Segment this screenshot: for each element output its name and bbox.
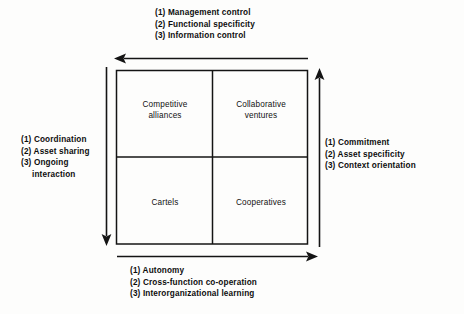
axis-label-top-line-1: (1) Management control bbox=[155, 7, 255, 19]
axis-label-right-line-1: (1) Commitment bbox=[325, 137, 416, 149]
bottom-axis-arrow bbox=[117, 252, 318, 262]
axis-label-left: (1) Coordination (2) Asset sharing (3) O… bbox=[21, 134, 90, 180]
axis-label-bottom: (1) Autonomy (2) Cross-function co-opera… bbox=[130, 265, 257, 300]
axis-label-left-line-1: (1) Coordination bbox=[21, 134, 90, 146]
quadrant-top-right-line-2: ventures bbox=[236, 110, 286, 121]
quadrant-label-bottom-right: Cooperatives bbox=[236, 197, 286, 208]
diagram-canvas: (1) Management control (2) Functional sp… bbox=[0, 0, 464, 314]
axis-label-top-line-3: (3) Information control bbox=[155, 30, 255, 42]
top-axis-arrow bbox=[114, 54, 308, 64]
axis-label-top: (1) Management control (2) Functional sp… bbox=[155, 7, 255, 42]
axis-label-left-line-3: (3) Ongoing bbox=[21, 157, 90, 169]
quadrant-top-left-line-2: alliances bbox=[143, 110, 188, 121]
quadrant-label-top-left: Competitive alliances bbox=[143, 99, 188, 121]
left-axis-arrow bbox=[102, 67, 112, 246]
axis-label-bottom-line-3: (3) Interorganizational learning bbox=[130, 288, 257, 300]
axis-label-left-line-2: (2) Asset sharing bbox=[21, 146, 90, 158]
axis-label-bottom-line-1: (1) Autonomy bbox=[130, 265, 257, 277]
right-axis-arrow bbox=[315, 68, 325, 247]
axis-label-left-line-4: interaction bbox=[21, 169, 90, 181]
axis-label-right: (1) Commitment (2) Asset specificity (3)… bbox=[325, 137, 416, 172]
quadrant-top-right-line-1: Collaborative bbox=[236, 99, 286, 110]
axis-label-top-line-2: (2) Functional specificity bbox=[155, 19, 255, 31]
quadrant-label-top-right: Collaborative ventures bbox=[236, 99, 286, 121]
quadrant-bottom-left-line-1: Cartels bbox=[152, 197, 179, 208]
axis-label-right-line-3: (3) Context orientation bbox=[325, 160, 416, 172]
quadrant-top-left-line-1: Competitive bbox=[143, 99, 188, 110]
quadrant-label-bottom-left: Cartels bbox=[152, 197, 179, 208]
quadrant-bottom-right-line-1: Cooperatives bbox=[236, 197, 286, 208]
axis-label-bottom-line-2: (2) Cross-function co-operation bbox=[130, 277, 257, 289]
axis-label-right-line-2: (2) Asset specificity bbox=[325, 149, 416, 161]
